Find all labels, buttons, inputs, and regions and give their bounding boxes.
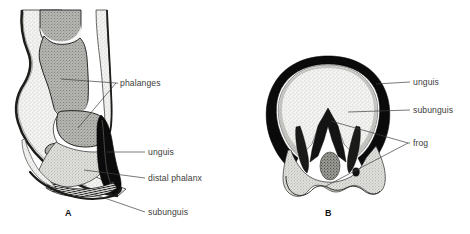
label-frog: frog bbox=[413, 138, 428, 148]
label-phalanges: phalanges bbox=[120, 78, 161, 88]
label-unguis-b: unguis bbox=[413, 77, 439, 87]
label-distal-phalanx: distal phalanx bbox=[148, 173, 203, 183]
label-subunguis-a: subunguis bbox=[148, 207, 188, 217]
panel-label-a: A bbox=[65, 208, 72, 218]
panel-label-b: B bbox=[325, 208, 332, 218]
anatomy-figure: phalanges unguis distal phalanx subungui… bbox=[0, 0, 470, 234]
figure-canvas: phalanges unguis distal phalanx subungui… bbox=[0, 0, 470, 234]
panel-b-digital-cushion bbox=[320, 152, 340, 180]
label-subunguis-b: subunguis bbox=[413, 105, 453, 115]
label-unguis-a: unguis bbox=[148, 147, 174, 157]
